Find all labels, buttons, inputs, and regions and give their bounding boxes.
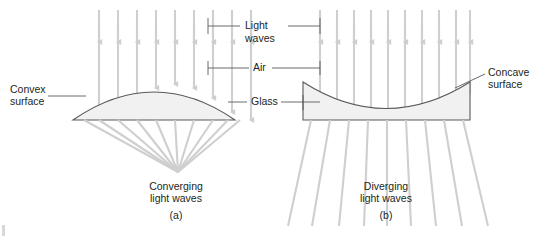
light-waves-label-line1: Light: [245, 19, 268, 31]
panel-b-caption-line2: light waves: [360, 192, 412, 204]
panel-b-caption-line1: Diverging: [364, 180, 409, 192]
concave-lens-body: [303, 82, 470, 120]
concave-surface-label-line1: Concave: [488, 66, 530, 78]
incident-ray-arrow-marks-b: [320, 28, 470, 42]
convex-surface-label-line2: surface: [10, 95, 45, 107]
panel-a-convex: Convex surface Converging light waves (a…: [10, 10, 251, 221]
light-waves-label-line2: waves: [244, 32, 275, 44]
converging-refracted-rays: [84, 120, 240, 172]
scan-edge-artifact: [2, 225, 5, 236]
panel-b-concave: Concave surface Diverging light waves (b…: [288, 10, 530, 226]
panel-a-tag: (a): [170, 209, 183, 221]
incident-ray-arrow-marks-a: [99, 28, 251, 42]
air-label: Air: [253, 61, 266, 73]
glass-label: Glass: [251, 95, 278, 107]
panel-a-caption-line1: Converging: [149, 180, 203, 192]
concave-surface-label-line2: surface: [488, 78, 523, 90]
center-annotations: Light waves Air Glass: [208, 18, 320, 110]
convex-lens-body: [73, 92, 235, 120]
optics-refraction-figure: Convex surface Converging light waves (a…: [0, 0, 540, 240]
panel-b-tag: (b): [380, 209, 393, 221]
convex-surface-label-line1: Convex: [10, 83, 46, 95]
refraction-diagram-canvas: Convex surface Converging light waves (a…: [0, 0, 540, 240]
panel-a-caption-line2: light waves: [150, 192, 202, 204]
